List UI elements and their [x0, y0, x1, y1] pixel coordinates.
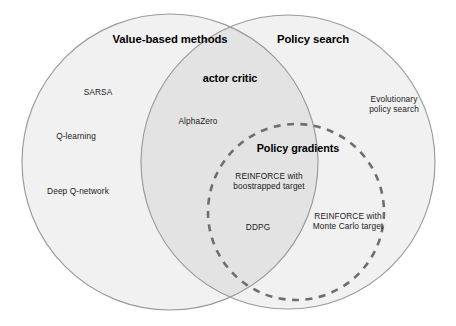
- venn-diagram-figure: Value-based methodsPolicy searchactor cr…: [0, 0, 456, 326]
- venn-diagram-canvas: [0, 0, 456, 326]
